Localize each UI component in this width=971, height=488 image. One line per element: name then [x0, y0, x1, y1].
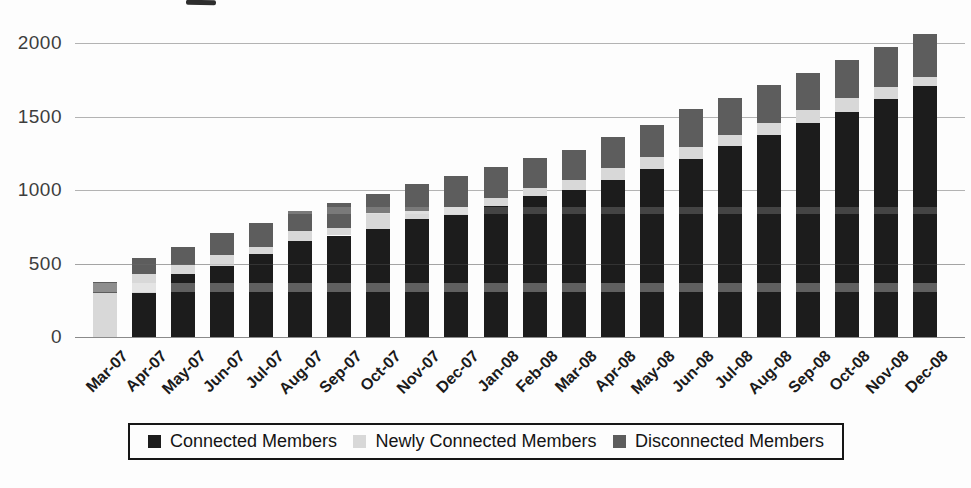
bar-segment-Dec-08-1 [913, 77, 937, 86]
legend-swatch-newly-connected-members [353, 435, 366, 448]
bar-segment-Mar-08-0 [562, 190, 586, 337]
legend-label-connected-members: Connected Members [170, 431, 337, 452]
bar-segment-Apr-08-2 [601, 137, 625, 168]
bar-segment-Dec-08-0 [913, 86, 937, 337]
bar-segment-Sep-07-1 [327, 228, 351, 235]
bar-segment-Aug-08-0 [757, 135, 781, 337]
legend-item-connected-members: Connected Members [148, 431, 337, 452]
bar-segment-May-08-2 [640, 125, 664, 157]
bar-segment-Jan-08-0 [484, 206, 508, 337]
bar-segment-Aug-07-0 [288, 241, 312, 337]
bar-segment-Jun-07-0 [210, 266, 234, 337]
bar-segment-Nov-07-0 [405, 219, 429, 337]
bar-segment-Sep-08-0 [796, 123, 820, 337]
bar-segment-Nov-07-2 [405, 184, 429, 211]
bar-segment-Dec-08-2 [913, 34, 937, 77]
bar-segment-Nov-08-1 [874, 87, 898, 99]
bar-segment-Oct-07-0 [366, 229, 390, 337]
bar-segment-May-08-1 [640, 157, 664, 169]
bar-segment-Apr-08-0 [601, 180, 625, 337]
bar-segment-Jan-08-2 [484, 167, 508, 198]
y-axis-tick-2000: 2000 [2, 32, 62, 54]
gridline-500 [75, 264, 965, 265]
bar-segment-Feb-08-0 [523, 196, 547, 337]
gridline-2000 [75, 43, 965, 44]
chart-legend: Connected Members Newly Connected Member… [128, 423, 844, 460]
bar-segment-Jun-07-1 [210, 255, 234, 265]
bar-segment-Mar-08-2 [562, 150, 586, 180]
legend-item-disconnected-members: Disconnected Members [613, 431, 824, 452]
stacked-bar-chart: 0500100015002000Mar-07Apr-07May-07Jun-07… [0, 0, 971, 488]
bar-segment-Oct-07-1 [366, 213, 390, 229]
bar-segment-Nov-08-0 [874, 99, 898, 337]
bar-segment-Dec-07-0 [444, 215, 468, 337]
bar-segment-Sep-08-1 [796, 110, 820, 123]
bar-segment-Jul-07-0 [249, 254, 273, 337]
legend-item-newly-connected-members: Newly Connected Members [353, 431, 596, 452]
bar-segment-Apr-07-1 [132, 274, 156, 293]
bar-segment-Mar-07-1 [93, 293, 117, 337]
gridline-1000 [75, 190, 965, 191]
bar-segment-Mar-08-1 [562, 180, 586, 190]
bar-segment-Apr-08-1 [601, 168, 625, 180]
bar-segment-Oct-08-0 [835, 112, 859, 337]
bar-segment-Jul-08-1 [718, 135, 742, 146]
bar-segment-May-07-1 [171, 265, 195, 274]
y-axis-tick-1500: 1500 [2, 106, 62, 128]
bar-segment-Jul-07-2 [249, 223, 273, 247]
bar-segment-Jul-08-0 [718, 146, 742, 337]
bar-segment-Oct-08-1 [835, 98, 859, 112]
bar-segment-Jan-08-1 [484, 198, 508, 206]
bar-segment-Apr-07-0 [132, 293, 156, 337]
legend-label-disconnected-members: Disconnected Members [635, 431, 824, 452]
bar-segment-Sep-07-0 [327, 236, 351, 337]
bar-segment-May-07-0 [171, 274, 195, 337]
bar-segment-Nov-08-2 [874, 47, 898, 87]
bar-segment-Sep-07-2 [327, 203, 351, 228]
bar-segment-Jun-08-1 [679, 147, 703, 159]
scan-artifact-dash [186, 0, 216, 5]
y-axis-tick-1000: 1000 [2, 179, 62, 201]
bar-segment-Nov-07-1 [405, 211, 429, 219]
bar-segment-Oct-08-2 [835, 60, 859, 98]
bar-segment-Oct-07-2 [366, 194, 390, 213]
bar-segment-Apr-07-2 [132, 258, 156, 274]
y-axis-tick-500: 500 [2, 253, 62, 275]
bar-segment-Jun-08-0 [679, 159, 703, 337]
bar-segment-Aug-08-2 [757, 85, 781, 123]
bar-segment-Feb-08-1 [523, 188, 547, 196]
bar-segment-Sep-08-2 [796, 73, 820, 110]
bar-segment-Feb-08-2 [523, 158, 547, 188]
gridline-1500 [75, 117, 965, 118]
legend-swatch-disconnected-members [613, 435, 626, 448]
bar-segment-May-08-0 [640, 169, 664, 337]
bar-segment-Jun-08-2 [679, 109, 703, 147]
bar-segment-Jul-07-1 [249, 247, 273, 254]
bar-segment-Mar-07-2 [93, 282, 117, 293]
bar-segment-Aug-07-1 [288, 231, 312, 241]
bar-segment-Aug-08-1 [757, 123, 781, 135]
legend-swatch-connected-members [148, 435, 161, 448]
bar-segment-Dec-07-1 [444, 207, 468, 215]
gridline-0 [75, 337, 965, 338]
bar-segment-Aug-07-2 [288, 211, 312, 232]
scan-band-upper [75, 207, 965, 214]
legend-label-newly-connected-members: Newly Connected Members [375, 431, 596, 452]
y-axis-tick-0: 0 [2, 326, 62, 348]
bar-segment-Jun-07-2 [210, 233, 234, 256]
bar-segment-May-07-2 [171, 247, 195, 265]
scan-band-lower [75, 283, 965, 292]
bar-segment-Dec-07-2 [444, 176, 468, 207]
bar-segment-Jul-08-2 [718, 98, 742, 135]
